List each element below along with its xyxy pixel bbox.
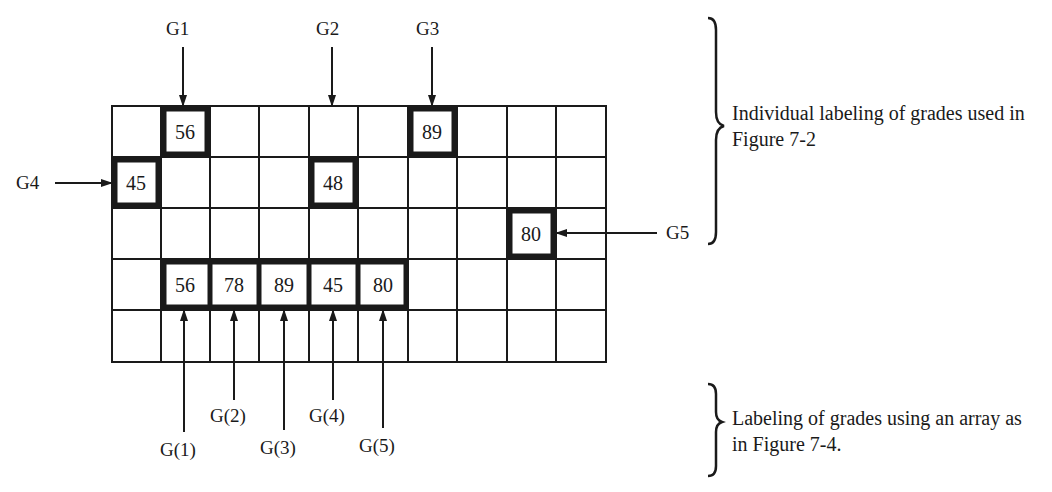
cell-value: 78 — [214, 265, 254, 305]
cell-value: 45 — [313, 265, 353, 305]
note-array: Labeling of grades using an array as in … — [732, 405, 1042, 457]
cell-value: 89 — [412, 112, 452, 152]
label-g3: G3 — [416, 18, 439, 40]
label-g5: G5 — [666, 222, 689, 244]
cell-value: 56 — [165, 112, 205, 152]
cell-value: 80 — [363, 265, 403, 305]
label-array-1: G(1) — [160, 439, 196, 461]
label-array-4: G(4) — [309, 405, 345, 427]
cell-value: 56 — [165, 265, 205, 305]
label-g1: G1 — [166, 18, 189, 40]
brace-array — [708, 384, 722, 476]
label-array-5: G(5) — [359, 435, 395, 457]
label-g4: G4 — [16, 172, 39, 194]
note-individual: Individual labeling of grades used in Fi… — [732, 100, 1042, 152]
cell-value: 48 — [313, 163, 353, 203]
label-g2: G2 — [316, 18, 339, 40]
label-array-2: G(2) — [210, 405, 246, 427]
cell-value: 80 — [511, 214, 551, 254]
cell-value: 89 — [264, 265, 304, 305]
label-array-3: G(3) — [260, 437, 296, 459]
brace-individual — [708, 18, 724, 244]
cell-value: 45 — [116, 163, 156, 203]
